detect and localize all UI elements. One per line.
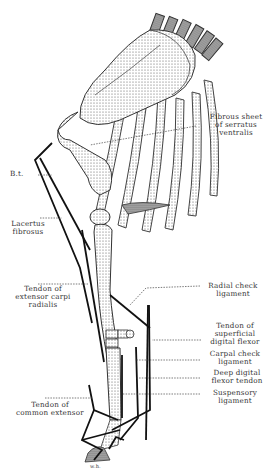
label-common-extensor: Tendon of common extensor bbox=[10, 401, 90, 417]
label-line: ligament bbox=[200, 358, 270, 366]
label-lacertus: Lacertus fibrosus bbox=[8, 220, 48, 236]
label-line: common extensor bbox=[10, 409, 90, 417]
label-line: radialis bbox=[8, 301, 78, 309]
anatomy-diagram: Fibrous sheet of serratus ventralis B.t.… bbox=[0, 0, 273, 471]
label-deep-flexor: Deep digital flexor tendon bbox=[202, 369, 272, 385]
label-line: fibrosus bbox=[8, 228, 48, 236]
label-line: flexor tendon bbox=[202, 377, 272, 385]
label-superficial-flexor: Tendon of superficial digital flexor bbox=[200, 322, 270, 346]
label-fibrous-sheet: Fibrous sheet of serratus ventralis bbox=[198, 113, 273, 137]
label-radial-check: Radial check ligament bbox=[198, 282, 268, 298]
label-carpal-check: Carpal check ligament bbox=[200, 350, 270, 366]
label-bt: B.t. bbox=[10, 170, 24, 178]
label-line: ventralis bbox=[198, 129, 273, 137]
cannon-bone bbox=[106, 348, 121, 420]
label-line: ligament bbox=[198, 290, 268, 298]
label-line: digital flexor bbox=[200, 338, 270, 346]
label-suspensory: Suspensory ligament bbox=[200, 389, 270, 405]
label-extensor-carpi: Tendon of extensor carpi radialis bbox=[8, 285, 78, 309]
label-line: ligament bbox=[200, 397, 270, 405]
label-line: B.t. bbox=[10, 170, 24, 178]
artist-signature: w.h. bbox=[90, 462, 101, 470]
